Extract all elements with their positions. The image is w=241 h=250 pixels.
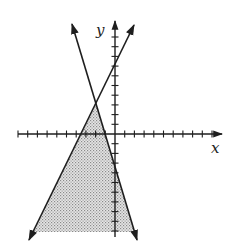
y-axis-label: y	[95, 21, 105, 39]
inequality-graph: y x	[0, 0, 241, 250]
shaded-solution-region	[33, 104, 134, 232]
x-axis	[18, 131, 222, 138]
x-axis-label: x	[211, 139, 220, 157]
